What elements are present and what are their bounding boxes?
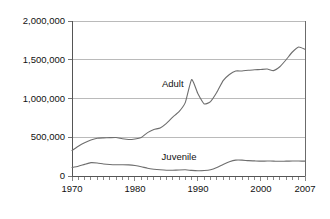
x-tick-label: 1990	[187, 183, 208, 194]
chart-figure: 0500,0001,000,0001,500,0002,000,000 1970…	[0, 0, 330, 219]
x-tick-label: 2000	[250, 183, 271, 194]
x-tick-label: 1980	[124, 183, 145, 194]
x-tick-label: 1970	[61, 183, 82, 194]
y-tick-label: 0	[60, 170, 65, 181]
y-tick-label: 1,500,000	[23, 54, 65, 65]
x-tick-label: 2007	[294, 183, 315, 194]
y-tick-label: 500,000	[31, 131, 65, 142]
y-tick-label: 2,000,000	[23, 15, 65, 26]
line-chart-canvas: 0500,0001,000,0001,500,0002,000,000 1970…	[0, 0, 330, 219]
series-label-adult: Adult	[162, 78, 184, 89]
y-tick-label: 1,000,000	[23, 93, 65, 104]
chart-background	[0, 0, 330, 219]
series-label-juvenile: Juvenile	[162, 151, 197, 162]
